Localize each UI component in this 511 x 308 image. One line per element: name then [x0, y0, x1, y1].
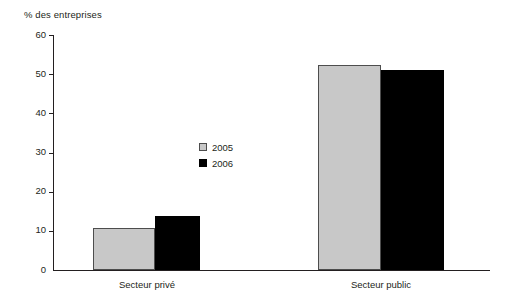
- y-axis-title: % des entreprises: [24, 9, 102, 20]
- bar-prive-2006: [155, 216, 200, 270]
- bar-prive-2005: [93, 228, 155, 270]
- x-axis-line: [53, 270, 490, 271]
- bar-chart: % des entreprises 60 50 40 30 20 10: [0, 0, 511, 308]
- y-tick-mark: [49, 74, 53, 75]
- y-tick-mark: [49, 113, 53, 114]
- y-tick-mark: [49, 192, 53, 193]
- y-tick-mark: [49, 35, 53, 36]
- legend-swatch-icon-2006: [199, 159, 207, 167]
- y-tick-label: 0: [41, 264, 46, 276]
- x-category-label-public: Secteur public: [311, 279, 451, 290]
- legend-label-2005: 2005: [212, 142, 233, 153]
- bar-public-2005: [318, 65, 381, 270]
- y-tick-label: 10: [35, 224, 46, 236]
- y-tick-label: 20: [35, 185, 46, 197]
- legend-item-2005: 2005: [199, 139, 233, 155]
- legend-swatch-icon-2005: [199, 143, 207, 151]
- y-tick-label: 60: [35, 29, 46, 41]
- y-axis-line: [53, 35, 54, 271]
- y-tick-mark: [49, 231, 53, 232]
- y-tick-label: 30: [35, 146, 46, 158]
- plot-area: 60 50 40 30 20 10 0 Se: [53, 35, 490, 270]
- legend-label-2006: 2006: [212, 158, 233, 169]
- y-tick-label: 50: [35, 68, 46, 80]
- bar-public-2006: [381, 70, 444, 270]
- x-category-label-prive: Secteur privé: [77, 279, 217, 290]
- legend-item-2006: 2006: [199, 155, 233, 171]
- y-tick-mark: [49, 153, 53, 154]
- legend: 2005 2006: [199, 139, 233, 171]
- y-tick-label: 40: [35, 107, 46, 119]
